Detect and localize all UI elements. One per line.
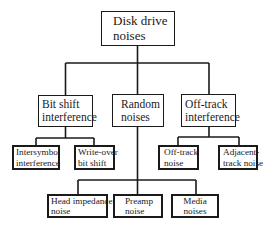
node-preamp-noise: Preamp noise [113,194,163,218]
node-label-line: Adjacent- [223,147,256,157]
node-label-line: interference [185,111,235,124]
noise-taxonomy-diagram: Disk drive noises Bit shift interference… [0,0,276,231]
node-label-line: Disk drive [113,14,174,29]
node-label-line: noises [113,29,174,44]
node-label-line: Media [173,196,217,206]
node-label-line: Random [121,98,163,111]
node-head-impedance-noise: Head impedance noise [47,194,108,218]
node-label-line: noise [164,158,197,168]
node-label-line: Head impedance [51,196,106,206]
node-media-noises: Media noises [171,194,219,218]
node-label-line: Preamp [125,196,161,206]
node-adjacent-track-noise: Adjacent- track noise [218,145,258,170]
node-label-line: Intersymbol [16,147,58,157]
node-label-line: noise [51,206,106,216]
node-disk-drive-noises: Disk drive noises [101,11,175,46]
node-label-line: bit shift [78,158,113,168]
node-label-line: interference [42,111,92,124]
node-random-noises: Random noises [112,94,164,127]
node-label-line: noise [125,206,161,216]
node-label-line: Write-over [78,147,113,157]
node-label-line: Off-track [164,147,197,157]
node-off-track-noise: Off-track noise [158,145,199,170]
node-bit-shift-interference: Bit shift interference [38,95,93,127]
node-label-line: track noise [223,158,256,168]
node-label-line: noises [121,111,163,124]
node-label-line: interference [16,158,58,168]
node-write-over-bit-shift: Write-over bit shift [74,145,115,170]
node-label-line: Off-track [185,98,235,111]
node-off-track-interference: Off-track interference [181,94,236,127]
node-label-line: noises [173,206,217,216]
node-intersymbol-interference: Intersymbol interference [12,145,60,170]
node-label-line: Bit shift [42,98,92,111]
